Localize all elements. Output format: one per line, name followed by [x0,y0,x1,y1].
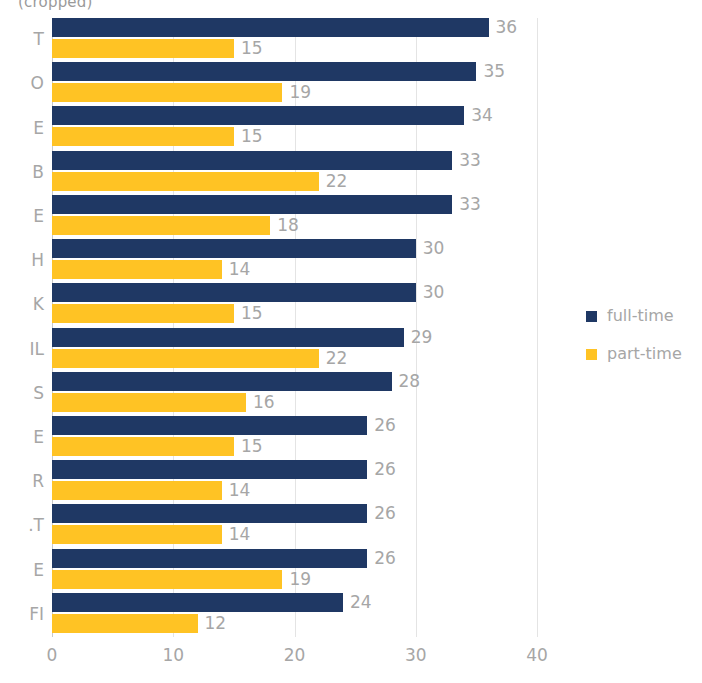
bar-value-label: 29 [411,328,433,347]
bar-value-label: 15 [241,304,263,323]
bar-part-time [52,570,282,589]
category-axis-label: T [34,29,44,49]
bar-full-time [52,283,416,302]
bar-group: 3015 [52,283,537,327]
bar-full-time [52,18,489,37]
bar-part-time [52,304,234,323]
bar-value-label: 26 [374,549,396,568]
bar-value-label: 22 [326,349,348,368]
bar-part-time [52,127,234,146]
chart-title-fragment: (cropped) [18,0,93,11]
category-axis-label: E [33,427,44,447]
bar-group: 3615 [52,18,537,62]
x-axis-tick-label: 20 [284,645,306,665]
bar-full-time [52,106,464,125]
legend-label: full-time [607,306,674,326]
category-axis: TOEBEHKILSER.TEFI [0,18,44,637]
bar-full-time [52,372,392,391]
bar-value-label: 28 [399,372,421,391]
bar-part-time [52,349,319,368]
bar-value-label: 19 [289,570,311,589]
category-axis-label: FI [29,604,44,624]
bar-value-label: 14 [229,525,251,544]
bar-part-time [52,216,270,235]
bar-group: 2614 [52,460,537,504]
bar-value-label: 26 [374,460,396,479]
bar-value-label: 14 [229,481,251,500]
bar-value-label: 12 [205,614,227,633]
category-axis-label: K [33,294,44,314]
category-axis-label: E [33,118,44,138]
bar-full-time [52,239,416,258]
bar-full-time [52,416,367,435]
category-axis-label: B [32,162,44,182]
bar-value-label: 14 [229,260,251,279]
bar-part-time [52,172,319,191]
bar-value-label: 15 [241,437,263,456]
bar-group: 2614 [52,504,537,548]
bar-part-time [52,481,222,500]
bar-part-time [52,260,222,279]
x-axis-tick-label: 10 [162,645,184,665]
bar-value-label: 15 [241,127,263,146]
category-axis-label: .T [28,515,44,535]
bar-full-time [52,504,367,523]
bar-full-time [52,549,367,568]
legend-swatch-icon [586,311,597,322]
category-axis-label: O [31,73,44,93]
x-axis-tick-label: 30 [405,645,427,665]
category-axis-label: IL [30,339,45,359]
bar-full-time [52,62,476,81]
bar-value-label: 34 [471,106,493,125]
gridline [537,18,538,637]
bar-value-label: 18 [277,216,299,235]
bar-value-label: 30 [423,239,445,258]
bar-value-label: 33 [459,151,481,170]
bar-group: 2619 [52,549,537,593]
bar-value-label: 36 [496,18,518,37]
bar-part-time [52,83,282,102]
category-axis-label: H [31,250,44,270]
bar-part-time [52,39,234,58]
category-axis-label: E [33,206,44,226]
bar-part-time [52,437,234,456]
bar-full-time [52,460,367,479]
bar-chart: (cropped) TOEBEHKILSER.TEFI 361535193415… [0,0,702,683]
bar-value-label: 26 [374,416,396,435]
bar-value-label: 16 [253,393,275,412]
x-axis-tick-label: 0 [47,645,58,665]
bar-group: 2615 [52,416,537,460]
bar-group: 3014 [52,239,537,283]
bar-value-label: 35 [483,62,505,81]
bar-group: 2412 [52,593,537,637]
bar-value-label: 30 [423,283,445,302]
bar-group: 3318 [52,195,537,239]
category-axis-label: S [33,383,44,403]
bar-full-time [52,593,343,612]
legend-swatch-icon [586,349,597,360]
bar-group: 2922 [52,328,537,372]
bar-group: 2816 [52,372,537,416]
bar-part-time [52,614,198,633]
x-axis-tick-label: 40 [526,645,548,665]
bar-full-time [52,195,452,214]
legend-label: part-time [607,344,682,364]
bar-group: 3519 [52,62,537,106]
bar-value-label: 33 [459,195,481,214]
bar-part-time [52,393,246,412]
bar-value-label: 24 [350,593,372,612]
category-axis-label: R [32,471,44,491]
bar-full-time [52,151,452,170]
bar-value-label: 26 [374,504,396,523]
plot-area: 3615351934153322331830143015292228162615… [52,18,537,637]
bar-value-label: 22 [326,172,348,191]
category-axis-label: E [33,560,44,580]
bar-group: 3322 [52,151,537,195]
bar-value-label: 19 [289,83,311,102]
bar-part-time [52,525,222,544]
bar-value-label: 15 [241,39,263,58]
bar-group: 3415 [52,106,537,150]
bar-full-time [52,328,404,347]
